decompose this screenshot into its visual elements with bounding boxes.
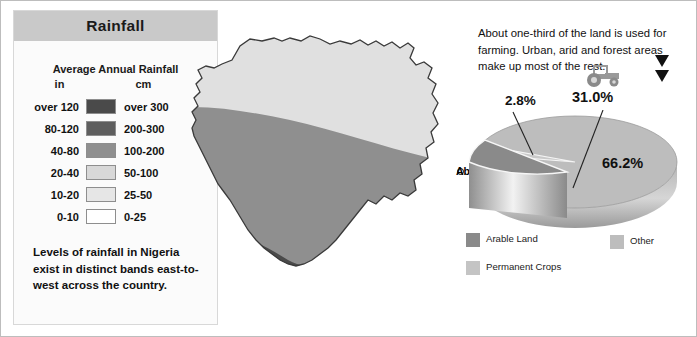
legend-swatch (86, 143, 116, 158)
legend-swatch (86, 165, 116, 180)
nigeria-map: Abuja (170, 8, 475, 320)
rainfall-unit-inches: in (24, 78, 96, 92)
page-title: Rainfall (86, 17, 144, 35)
pie-legend-item-other: Other (610, 235, 654, 249)
pie-label-permanent-crops: 2.8% (505, 93, 536, 108)
down-triangle-marker-icon (655, 55, 669, 67)
map-rainfall-bands (170, 8, 475, 320)
legend-swatch (86, 99, 116, 114)
rainfall-unit-spacer (96, 78, 132, 92)
tractor-icon (580, 62, 622, 88)
pie-legend-swatch (466, 261, 480, 275)
land-use-caption: About one-third of the land is used for … (478, 25, 678, 75)
pie-legend-label: Permanent Crops (486, 261, 561, 273)
legend-row-inches: 20-40 (14, 167, 86, 179)
down-triangle-marker-icon (655, 70, 669, 82)
legend-row-inches: 80-120 (14, 123, 86, 135)
pie-legend-swatch (610, 235, 624, 249)
legend-swatch (86, 187, 116, 202)
pie-legend-item-arable-land: Arable Land (466, 233, 538, 247)
pie-label-arable-land: 31.0% (572, 89, 613, 105)
legend-row-inches: 10-20 (14, 189, 86, 201)
nigeria-map-svg (170, 8, 475, 320)
land-use-pie-chart (455, 110, 695, 230)
pie-legend-label: Other (630, 235, 654, 247)
legend-row-inches: 0-10 (14, 211, 86, 223)
pie-svg (455, 110, 695, 230)
legend-row-inches: 40-80 (14, 145, 86, 157)
legend-swatch (86, 121, 116, 136)
pie-legend-label: Arable Land (486, 233, 538, 245)
pie-legend-swatch (466, 233, 480, 247)
legend-swatch (86, 209, 116, 224)
pie-label-other: 66.2% (602, 155, 643, 171)
legend-row-inches: over 120 (14, 101, 86, 113)
pie-legend-item-permanent-crops: Permanent Crops (466, 261, 561, 275)
